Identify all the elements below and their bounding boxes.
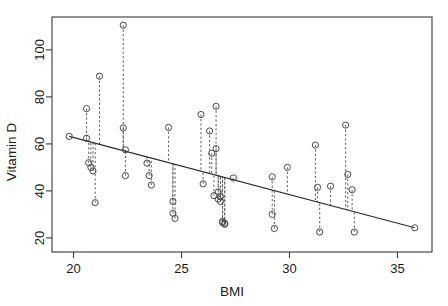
x-axis-title: BMI [220,284,244,299]
y-tick-label: 20 [32,231,47,245]
x-tick-label: 20 [66,261,80,276]
y-tick-label: 80 [32,90,47,104]
y-tick-label: 100 [32,39,47,61]
x-tick-label: 30 [282,261,296,276]
x-tick-label: 35 [390,261,404,276]
regression-fit-line [69,136,414,227]
y-axis-title: Vitamin D [4,123,19,182]
data-points [66,22,418,235]
x-axis-ticks: 20253035 [66,252,404,276]
plot-canvas: 20406080100 20253035 Vitamin D BMI [0,0,448,306]
y-tick-label: 40 [32,184,47,198]
y-tick-label: 60 [32,137,47,151]
x-tick-label: 25 [174,261,188,276]
vitamin-d-bmi-scatterplot: 20406080100 20253035 Vitamin D BMI [0,0,448,306]
y-axis-ticks: 20406080100 [32,39,52,245]
residual-segments [69,25,414,232]
